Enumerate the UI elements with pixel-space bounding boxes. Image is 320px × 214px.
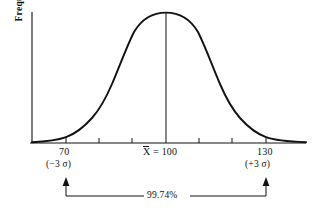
- span-bracket-right-arrowhead: [263, 177, 270, 186]
- left-tick-value-label: 70: [59, 147, 69, 157]
- normal-distribution-figure: Frequency 70 (−3 σ) X = 100 130 (+3 σ) 9…: [0, 0, 320, 214]
- right-tick-value-label: 130: [257, 147, 273, 157]
- distribution-plot-svg: [0, 0, 320, 214]
- mean-label-rest: = 100: [150, 146, 177, 157]
- mean-label: X = 100: [143, 147, 177, 157]
- bell-curve-path: [32, 13, 306, 143]
- span-bracket-left-arrowhead: [63, 177, 70, 186]
- y-axis-label: Frequency: [15, 0, 25, 22]
- mean-label-symbol: X: [143, 147, 150, 157]
- right-tick-sigma-label: (+3 σ): [245, 160, 270, 170]
- left-tick-sigma-label: (−3 σ): [46, 160, 71, 170]
- span-percentage-label: 99.74%: [145, 191, 180, 201]
